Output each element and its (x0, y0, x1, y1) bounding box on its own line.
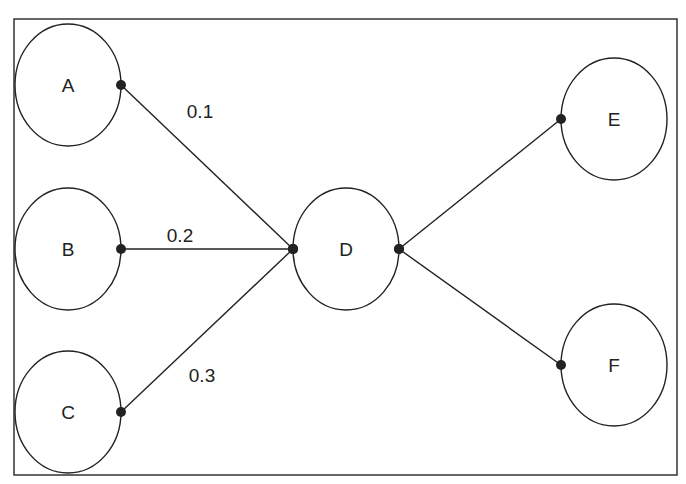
node-label: A (62, 75, 75, 96)
port-dot (116, 80, 126, 90)
edge-c-d (121, 249, 293, 412)
edge-weight-label: 0.2 (167, 225, 193, 246)
node-label: F (608, 355, 620, 376)
node-d: D (293, 188, 399, 310)
port-dot (394, 244, 404, 254)
node-a: A (15, 24, 121, 146)
node-label: C (61, 402, 75, 423)
port-dot (116, 407, 126, 417)
node-e: E (561, 58, 667, 180)
edge-d-f (399, 249, 561, 365)
node-label: B (62, 239, 75, 260)
port-dot (116, 244, 126, 254)
port-dot (288, 244, 298, 254)
node-c: C (15, 351, 121, 473)
node-b: B (15, 188, 121, 310)
edge-weight-label: 0.1 (187, 101, 213, 122)
port-dot (556, 114, 566, 124)
graph-diagram: 0.10.20.3 ABCDEF (0, 0, 686, 484)
node-f: F (561, 304, 667, 426)
port-dot (556, 360, 566, 370)
node-label: D (339, 239, 353, 260)
edge-weight-label: 0.3 (189, 365, 215, 386)
node-label: E (608, 109, 621, 130)
edge-d-e (399, 119, 561, 249)
